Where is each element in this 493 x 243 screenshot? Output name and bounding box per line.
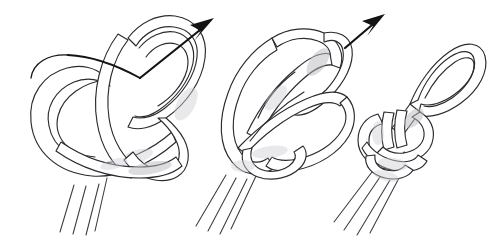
knot-diagram-figure: Figure-eight follow-through knot tying s… xyxy=(0,0,493,243)
knot-diagram-canvas xyxy=(0,0,493,243)
panel-2-shade-d xyxy=(231,160,255,172)
panel-3-shade-b xyxy=(372,121,384,145)
panel-3-center-strand-b xyxy=(395,110,407,148)
